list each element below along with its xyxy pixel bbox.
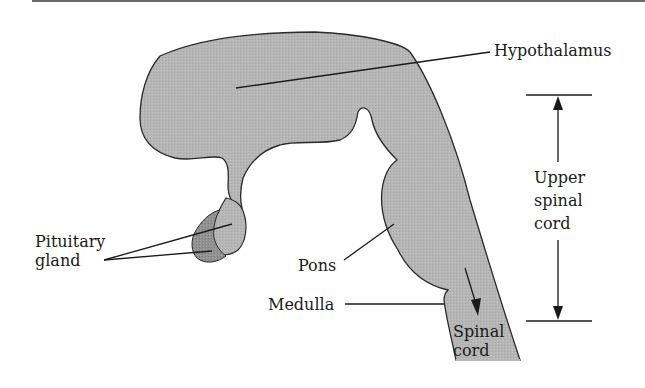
label-upper-spinal-cord: Upper spinal cord [534,166,585,235]
diagram-canvas: Hypothalamus Pituitary gland Pons Medull… [0,0,645,388]
label-pituitary-line1: Pituitary [35,232,105,251]
label-pons: Pons [298,256,336,275]
arrow-up-icon [553,96,563,110]
pons-leader-line [344,224,394,260]
label-medulla: Medulla [268,295,334,314]
label-spinal-line2: cord [453,341,504,360]
label-pituitary-line2: gland [35,251,105,270]
label-upper-line2: spinal [534,189,585,212]
label-upper-line3: cord [534,212,585,235]
label-spinal-line1: Spinal [453,322,504,341]
label-upper-line1: Upper [534,166,585,189]
label-pituitary-gland: Pituitary gland [35,232,105,270]
label-spinal-cord: Spinal cord [453,322,504,360]
label-hypothalamus: Hypothalamus [494,41,611,60]
arrow-down-icon [553,306,563,320]
